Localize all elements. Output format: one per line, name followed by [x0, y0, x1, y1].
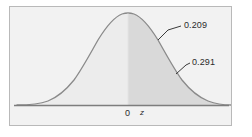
x-axis-tick-zero: 0 [125, 108, 130, 118]
x-axis-variable-symbol: z [140, 108, 144, 117]
leader-line-lower [176, 63, 190, 74]
annotation-label-upper: 0.209 [184, 20, 207, 30]
leader-line-upper [158, 26, 181, 40]
area-left-of-mean [18, 13, 128, 105]
normal-curve-figure: 0.209 0.291 0 z [0, 0, 252, 137]
annotation-label-lower: 0.291 [192, 57, 215, 67]
